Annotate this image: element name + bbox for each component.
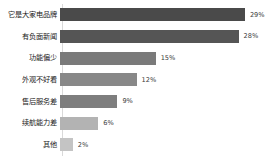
- bar-value-label: 15%: [156, 55, 176, 62]
- bar-segment: [60, 117, 98, 130]
- bar-row: 续航能力差 6%: [0, 112, 268, 134]
- category-label: 它是大家电品牌: [0, 11, 60, 19]
- bar-value-label: 9%: [117, 98, 132, 105]
- bar-segment: [60, 73, 137, 86]
- category-label: 有负面新闻: [0, 33, 60, 41]
- bar-track: 29%: [60, 4, 268, 26]
- bar-track: 15%: [60, 47, 268, 69]
- bar-track: 6%: [60, 112, 268, 134]
- bar-segment: [60, 8, 245, 21]
- category-label: 续航能力差: [0, 119, 60, 127]
- bar-chart: 它是大家电品牌 29% 有负面新闻 28% 功能偏少 15% 外观不好看: [0, 0, 268, 165]
- bar-value-label: 12%: [137, 77, 157, 84]
- bar-track: 9%: [60, 91, 268, 113]
- category-label: 售后服务差: [0, 98, 60, 106]
- bar-segment: [60, 52, 156, 65]
- plot-area: 它是大家电品牌 29% 有负面新闻 28% 功能偏少 15% 外观不好看: [0, 4, 268, 162]
- bar-value-label: 2%: [73, 142, 88, 149]
- category-label: 其他: [0, 141, 60, 149]
- bar-track: 2%: [60, 134, 268, 156]
- bar-segment: [60, 95, 117, 108]
- bar-segment: [60, 30, 239, 43]
- bar-row: 它是大家电品牌 29%: [0, 4, 268, 26]
- bar-value-label: 29%: [245, 12, 265, 19]
- bar-value-label: 6%: [98, 120, 113, 127]
- bar-row: 功能偏少 15%: [0, 47, 268, 69]
- bar-row: 其他 2%: [0, 134, 268, 156]
- category-label: 外观不好看: [0, 76, 60, 84]
- bar-track: 12%: [60, 69, 268, 91]
- bar-value-label: 28%: [239, 33, 259, 40]
- bar-row: 有负面新闻 28%: [0, 26, 268, 48]
- bar-track: 28%: [60, 26, 268, 48]
- bar-row: 售后服务差 9%: [0, 91, 268, 113]
- bar-row: 外观不好看 12%: [0, 69, 268, 91]
- bar-segment: [60, 138, 73, 151]
- category-label: 功能偏少: [0, 54, 60, 62]
